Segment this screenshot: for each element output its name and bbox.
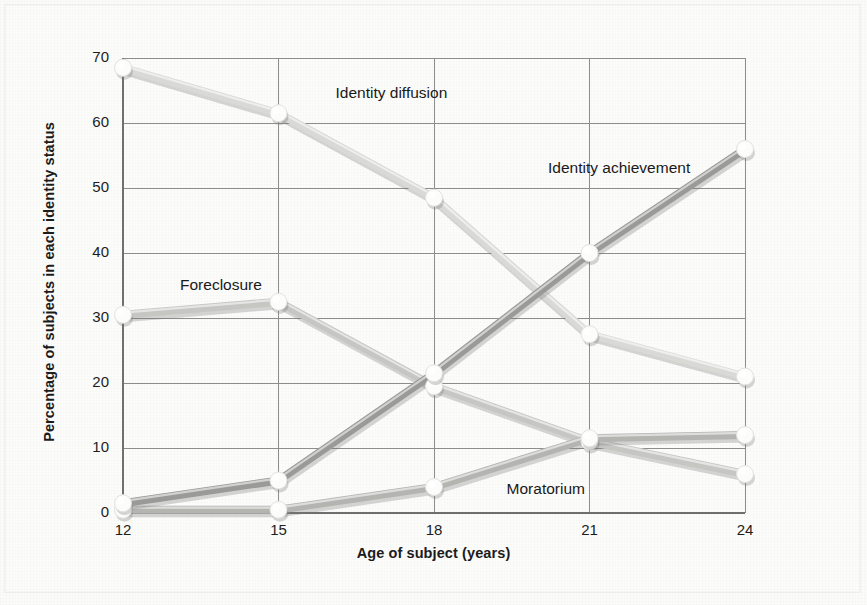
x-axis-title: Age of subject (years)	[0, 545, 867, 561]
y-tick-label: 10	[69, 438, 109, 455]
y-tick-label: 60	[69, 113, 109, 130]
data-point-marker	[115, 59, 132, 76]
x-tick-label: 15	[259, 521, 299, 538]
y-tick-label: 70	[69, 48, 109, 65]
data-point-marker	[737, 141, 754, 158]
data-point-marker	[581, 326, 598, 343]
series-line-shadow	[125, 71, 747, 380]
data-point-gloss	[117, 62, 124, 69]
series-line-shadow	[125, 438, 747, 513]
data-point-gloss	[584, 432, 591, 439]
x-tick-label: 18	[414, 521, 454, 538]
data-point-gloss	[273, 107, 280, 114]
data-point-marker	[737, 466, 754, 483]
series-label-foreclosure: Foreclosure	[180, 276, 262, 294]
y-axis-title: Percentage of subjects in each identity …	[41, 72, 57, 492]
data-point-marker	[426, 365, 443, 382]
data-point-gloss	[273, 504, 280, 511]
data-point-gloss	[428, 367, 435, 374]
y-tick-label: 0	[69, 503, 109, 520]
data-point-marker	[737, 427, 754, 444]
data-point-marker	[115, 495, 132, 512]
data-point-gloss	[117, 309, 124, 316]
data-point-marker	[426, 189, 443, 206]
data-point-gloss	[739, 429, 746, 436]
data-point-gloss	[117, 497, 124, 504]
series-label-moratorium: Moratorium	[507, 480, 585, 498]
data-point-marker	[426, 479, 443, 496]
data-point-marker	[270, 501, 287, 518]
data-point-gloss	[739, 468, 746, 475]
y-tick-label: 20	[69, 373, 109, 390]
data-point-gloss	[739, 371, 746, 378]
data-point-gloss	[428, 481, 435, 488]
series-label-identity-achievement: Identity achievement	[548, 159, 690, 177]
data-point-gloss	[273, 296, 280, 303]
data-point-marker	[270, 105, 287, 122]
data-point-gloss	[273, 475, 280, 482]
data-point-gloss	[584, 328, 591, 335]
x-tick-label: 21	[570, 521, 610, 538]
data-point-marker	[270, 293, 287, 310]
data-point-gloss	[584, 247, 591, 254]
data-point-gloss	[428, 192, 435, 199]
x-tick-label: 24	[725, 521, 765, 538]
y-tick-label: 40	[69, 243, 109, 260]
data-point-marker	[581, 430, 598, 447]
data-point-gloss	[739, 143, 746, 150]
data-point-marker	[115, 306, 132, 323]
data-point-marker	[270, 472, 287, 489]
data-point-marker	[581, 245, 598, 262]
figure-container: 010203040506070 1215182124 Percentage of…	[0, 0, 867, 605]
y-tick-label: 50	[69, 178, 109, 195]
x-tick-label: 12	[103, 521, 143, 538]
y-tick-label: 30	[69, 308, 109, 325]
series-label-identity-diffusion: Identity diffusion	[336, 84, 448, 102]
data-point-marker	[737, 368, 754, 385]
